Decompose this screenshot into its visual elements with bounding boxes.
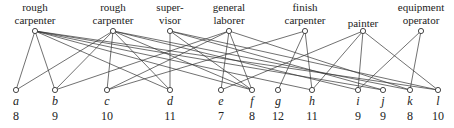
applicant-score: 9 [355,109,361,124]
edge [35,31,252,90]
applicant-node [104,87,109,92]
edge [55,31,229,90]
applicant-letter: k [407,94,412,109]
applicant-node [355,87,360,92]
job-label-line2: operator [398,15,444,26]
edge [55,31,113,90]
job-label-line1: super- [156,2,183,13]
applicant-score: 11 [164,109,176,124]
job-label: roughcarpenter [93,2,134,26]
applicant-node [309,87,314,92]
edge [221,31,363,90]
edge [305,31,312,90]
applicant-node [167,87,172,92]
job-node [167,28,172,33]
applicant-letter: g [275,94,281,109]
edge [113,31,410,90]
applicant-score: 8 [407,109,413,124]
edge [35,31,55,90]
applicant-letter: h [309,94,315,109]
job-node [360,28,365,33]
job-label-line2: laborer [213,15,245,26]
applicant-score: 9 [380,109,386,124]
job-label-line2: carpenter [285,15,326,26]
job-node [32,28,37,33]
edge [229,31,252,90]
applicant-letter: d [167,94,173,109]
job-label-line1: rough [15,2,56,13]
edge [358,31,363,90]
applicant-letter: e [218,94,223,109]
applicant-letter: i [356,94,359,109]
job-label-line1: finish [285,2,326,13]
job-node [418,28,423,33]
job-label-line2: carpenter [93,15,134,26]
applicant-letter: c [104,94,109,109]
edge [16,31,35,90]
job-label: equipmentoperator [398,2,444,26]
job-label-line2: visor [156,15,183,26]
job-label: painter [348,16,379,29]
job-label: generallaborer [213,2,245,26]
applicant-letter: l [436,94,439,109]
applicant-node [380,87,385,92]
applicant-letter: b [52,94,58,109]
applicant-node [52,87,57,92]
job-label-line1: equipment [398,2,444,13]
applicant-score: 10 [101,109,113,124]
applicant-letter: j [381,94,384,109]
job-node [226,28,231,33]
applicant-score: 11 [306,109,318,124]
applicant-score: 10 [432,109,444,124]
job-label: roughcarpenter [15,2,56,26]
applicant-node [218,87,223,92]
applicant-score: 12 [272,109,284,124]
applicant-node [435,87,440,92]
edge [107,31,113,90]
applicant-score: 7 [218,109,224,124]
job-label-line2: carpenter [15,15,56,26]
job-label: super-visor [156,2,183,26]
job-label-line1: general [213,2,245,13]
job-label-line2: painter [348,18,379,29]
edge [221,31,229,90]
applicant-letter: a [13,94,19,109]
applicant-score: 9 [52,109,58,124]
job-label-line1: rough [93,2,134,13]
job-node [110,28,115,33]
applicant-node [275,87,280,92]
applicant-node [13,87,18,92]
edge [16,31,113,90]
edge [363,31,438,90]
applicant-node [249,87,254,92]
applicant-score: 8 [13,109,19,124]
edge [35,31,312,90]
applicant-node [407,87,412,92]
job-node [302,28,307,33]
applicant-letter: f [250,94,253,109]
applicant-score: 8 [249,109,255,124]
job-label: finishcarpenter [285,2,326,26]
